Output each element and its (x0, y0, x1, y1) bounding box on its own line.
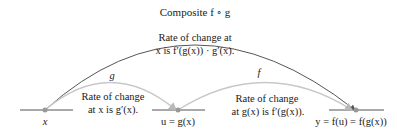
g-arc-label: g (106, 70, 118, 82)
g-rate-line2: at x is g′(x). (78, 104, 148, 116)
composite-rate-line2: x is f′(g(x)) · g′(x). (140, 45, 250, 57)
f-rate-line2: at g(x) is f′(g(x)). (218, 106, 318, 118)
f-arc-label: f (253, 67, 265, 79)
point-y-label: y = f(u) = f(g(x)) (305, 116, 397, 128)
composite-rate-line1: Rate of change at (145, 32, 245, 44)
composite-title: Composite f ∘ g (150, 6, 240, 18)
point-u (176, 108, 181, 113)
point-y (354, 108, 359, 113)
f-rate-line1: Rate of change (222, 93, 312, 105)
g-rate-line1: Rate of change (78, 91, 148, 103)
point-x-label: x (38, 116, 52, 128)
point-x (43, 108, 48, 113)
chain-rule-diagram: Composite f ∘ g Rate of change at x is f… (0, 0, 397, 135)
diagram-graphics (0, 0, 397, 135)
point-u-label: u = g(x) (150, 116, 206, 128)
